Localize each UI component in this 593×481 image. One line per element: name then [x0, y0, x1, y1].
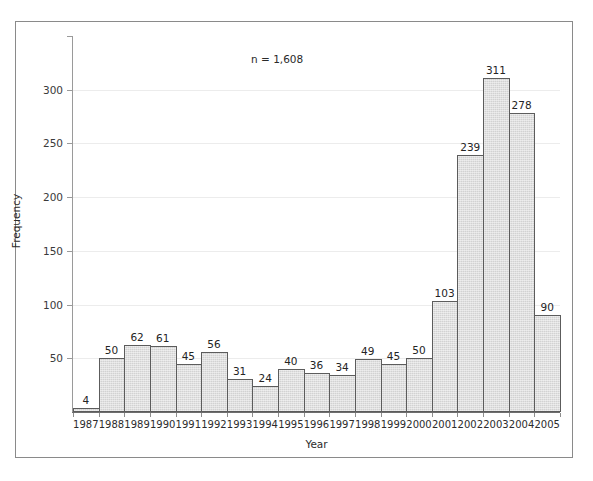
bar-value-label: 56	[193, 339, 235, 350]
x-tick-mark	[381, 413, 382, 417]
bar	[278, 369, 305, 412]
x-tick-mark	[278, 413, 279, 417]
x-tick-mark	[176, 413, 177, 417]
x-axis-spine	[72, 412, 560, 413]
bar	[406, 358, 433, 412]
x-tick-label: 2005	[528, 420, 566, 430]
bar-value-label: 311	[475, 65, 517, 76]
y-tick-mark	[67, 36, 73, 37]
y-axis-spine	[72, 36, 73, 413]
bar	[483, 78, 510, 412]
bar	[304, 373, 331, 412]
y-tick-label: 300	[25, 85, 63, 96]
x-tick-mark	[534, 413, 535, 417]
x-tick-mark	[432, 413, 433, 417]
y-tick-label: 150	[25, 246, 63, 257]
x-tick-mark	[406, 413, 407, 417]
bar	[176, 364, 203, 412]
bar	[252, 386, 279, 412]
bar	[457, 155, 484, 412]
x-tick-mark	[329, 413, 330, 417]
x-tick-mark	[150, 413, 151, 417]
y-tick-label: 100	[25, 300, 63, 311]
y-tick-mark	[67, 90, 73, 91]
y-tick-label: 250	[25, 138, 63, 149]
figure: 50100150200250300 4506261455631244036344…	[0, 0, 593, 481]
y-axis-title: Frequency	[10, 194, 22, 248]
bar-value-label: 61	[142, 333, 184, 344]
x-tick-mark	[227, 413, 228, 417]
y-tick-mark	[67, 143, 73, 144]
y-tick-mark	[67, 197, 73, 198]
bar	[124, 345, 151, 412]
x-tick-mark	[252, 413, 253, 417]
x-tick-mark	[560, 413, 561, 417]
y-tick-mark	[67, 251, 73, 252]
x-tick-mark	[99, 413, 100, 417]
y-tick-mark	[67, 358, 73, 359]
x-tick-mark	[457, 413, 458, 417]
x-tick-mark	[73, 413, 74, 417]
bar	[73, 408, 100, 412]
bar	[381, 364, 408, 412]
bar	[432, 301, 459, 412]
y-tick-mark	[67, 305, 73, 306]
y-tick-label: 50	[25, 353, 63, 364]
sample-size-annotation: n = 1,608	[251, 53, 303, 65]
bar-value-label: 90	[526, 302, 568, 313]
x-tick-mark	[304, 413, 305, 417]
x-tick-mark	[201, 413, 202, 417]
bar	[99, 358, 126, 412]
bar	[201, 352, 228, 412]
y-tick-label: 200	[25, 192, 63, 203]
x-tick-mark	[483, 413, 484, 417]
x-axis-title: Year	[73, 438, 560, 450]
bar	[355, 359, 382, 412]
bar-value-label: 278	[501, 100, 543, 111]
bar	[534, 315, 561, 412]
bar	[509, 113, 536, 412]
x-tick-mark	[124, 413, 125, 417]
x-tick-mark	[355, 413, 356, 417]
x-tick-mark	[509, 413, 510, 417]
bar	[329, 375, 356, 412]
